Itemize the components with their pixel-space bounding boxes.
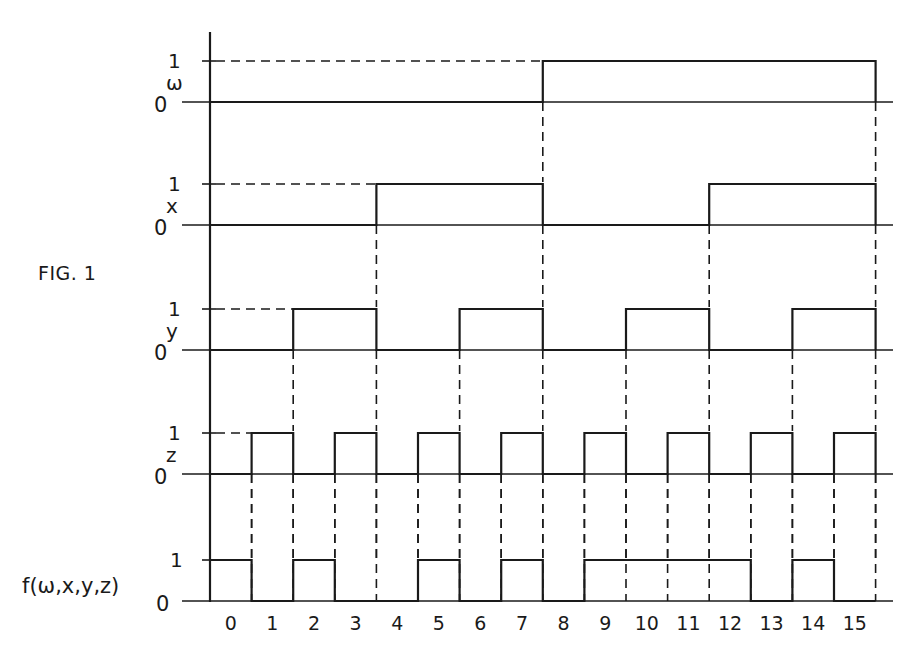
svg-text:10: 10 [635,612,659,634]
svg-text:3: 3 [350,612,362,634]
svg-text:7: 7 [516,612,528,634]
svg-text:0: 0 [154,216,167,240]
svg-text:1: 1 [168,172,181,196]
svg-text:8: 8 [558,612,570,634]
signal-labels: 10ω10x10y10z10f(ω,x,y,z) [22,49,183,616]
svg-text:y: y [166,319,178,343]
svg-text:1: 1 [170,548,183,572]
x-tick-labels: 0123456789101112131415 [225,612,867,634]
svg-text:15: 15 [843,612,867,634]
svg-text:z: z [166,443,177,467]
svg-text:0: 0 [225,612,237,634]
svg-text:1: 1 [168,297,181,321]
svg-text:0: 0 [154,341,167,365]
svg-text:1: 1 [168,421,181,445]
svg-text:1: 1 [266,612,278,634]
svg-text:x: x [166,194,178,218]
svg-text:0: 0 [154,93,167,117]
svg-text:11: 11 [676,612,700,634]
svg-text:4: 4 [391,612,403,634]
svg-text:5: 5 [433,612,445,634]
vertical-axis [202,32,216,602]
svg-text:0: 0 [154,465,167,489]
svg-text:9: 9 [599,612,611,634]
svg-text:ω: ω [166,71,183,95]
waveforms [182,61,893,601]
timing-diagram: 10ω10x10y10z10f(ω,x,y,z) 012345678910111… [0,0,917,647]
dashed-guides [216,61,876,601]
svg-text:12: 12 [718,612,742,634]
svg-text:6: 6 [474,612,486,634]
svg-text:f(ω,x,y,z): f(ω,x,y,z) [22,574,119,598]
svg-text:1: 1 [168,49,181,73]
svg-text:13: 13 [760,612,784,634]
svg-text:0: 0 [156,592,169,616]
svg-text:2: 2 [308,612,320,634]
svg-text:14: 14 [801,612,825,634]
